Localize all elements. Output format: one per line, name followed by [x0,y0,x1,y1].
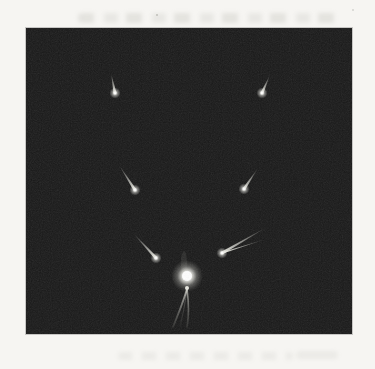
comet-photo-svg [26,28,352,334]
page-speck [352,9,354,11]
page-showthrough-smudge-top [78,13,340,23]
page-showthrough-smudge-bottom-right [296,351,338,359]
page-showthrough-smudge-bottom [118,352,293,360]
film-grain-overlay [26,28,352,334]
scanned-page: { "meta": { "description": "Black-and-wh… [0,0,375,369]
comet-photograph [26,28,352,334]
page-speck [156,14,158,16]
